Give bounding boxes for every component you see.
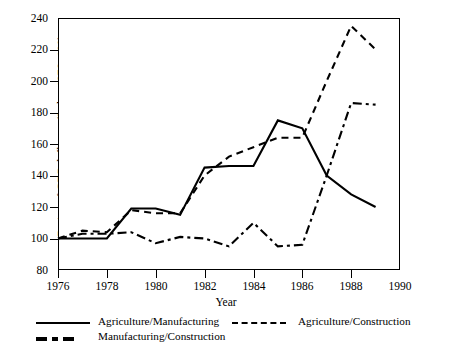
x-tick-label: 1978 <box>84 280 130 292</box>
x-axis-tick <box>205 270 206 278</box>
chart-figure: Ratios of GDP deflators (Index 1976=100)… <box>0 0 452 349</box>
legend-row: Manufacturing/Construction <box>36 330 446 345</box>
dash-dot-line-key <box>36 337 90 341</box>
x-axis-tick <box>351 270 352 278</box>
legend-label: Agriculture/Manufacturing <box>98 315 219 327</box>
x-axis-tick <box>254 270 255 278</box>
x-axis-tick <box>58 270 59 278</box>
series-line <box>58 26 376 239</box>
series-line <box>58 120 376 238</box>
x-tick-label: 1990 <box>377 280 423 292</box>
dashed-line-key <box>232 322 286 324</box>
legend-label: Agriculture/Construction <box>298 315 410 327</box>
chart-legend: Agriculture/Manufacturing Agriculture/Co… <box>36 315 446 345</box>
x-tick-label: 1988 <box>328 280 374 292</box>
x-axis-tick <box>302 270 303 278</box>
solid-line-key <box>36 322 90 324</box>
legend-row: Agriculture/Manufacturing Agriculture/Co… <box>36 315 446 330</box>
x-axis-tick <box>107 270 108 278</box>
series-line <box>58 103 376 246</box>
x-axis-tick <box>156 270 157 278</box>
x-tick-label: 1982 <box>182 280 228 292</box>
x-tick-label: 1986 <box>279 280 325 292</box>
x-tick-label: 1984 <box>231 280 277 292</box>
x-axis-title: Year <box>0 296 452 308</box>
legend-label: Manufacturing/Construction <box>98 330 225 342</box>
x-tick-label: 1980 <box>133 280 179 292</box>
x-tick-label: 1976 <box>35 280 81 292</box>
